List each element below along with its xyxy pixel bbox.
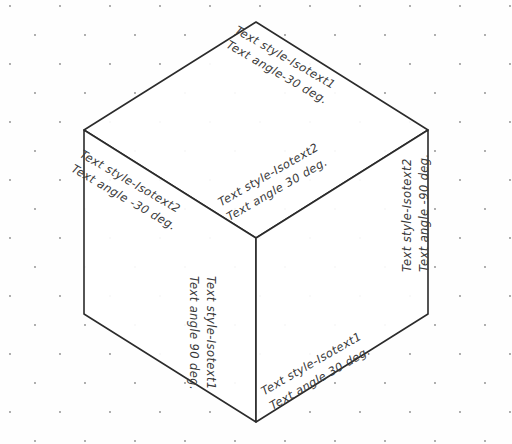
isometric-cube	[0, 0, 512, 444]
drawing-canvas: Text style-Isotext1 Text angle-30 deg. T…	[0, 0, 512, 444]
